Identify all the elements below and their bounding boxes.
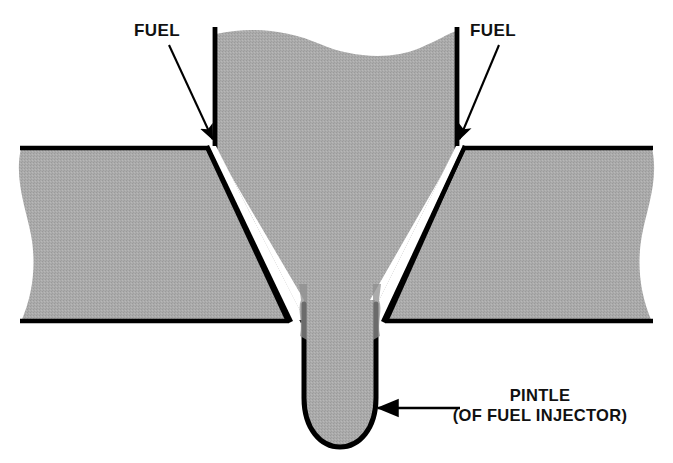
fuel-left-label: FUEL [134, 21, 180, 40]
callout-pintle: PINTLE (OF FUEL INJECTOR) [378, 386, 627, 424]
diagram-canvas: FUEL FUEL PINTLE (OF FUEL INJECTOR) [0, 0, 673, 463]
pintle [299, 284, 381, 447]
callout-fuel-right: FUEL [460, 21, 516, 139]
pintle-label-line1: PINTLE [510, 386, 570, 404]
pintle-shoulder-right [373, 284, 381, 340]
callout-fuel-left: FUEL [134, 21, 213, 139]
fuel-left-leader-line [169, 45, 213, 139]
pintle-shoulder-left [299, 284, 307, 340]
pintle-fill [305, 300, 375, 446]
pintle-label-line2: (OF FUEL INJECTOR) [453, 406, 627, 424]
fuel-right-leader-line [460, 45, 500, 139]
fuel-injector-diagram: FUEL FUEL PINTLE (OF FUEL INJECTOR) [0, 0, 673, 463]
fuel-right-label: FUEL [470, 21, 516, 40]
